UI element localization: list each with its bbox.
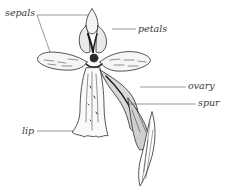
sepal-left <box>38 52 88 70</box>
petal-right <box>96 26 107 53</box>
label-spur: spur <box>198 98 220 108</box>
label-ovary: ovary <box>188 81 215 91</box>
dorsal-sepal <box>86 9 98 34</box>
label-lip: lip <box>22 126 34 136</box>
label-petals: petals <box>138 24 167 34</box>
label-sepals: sepals <box>5 8 35 18</box>
orchid-diagram: sepals petals ovary spur lip <box>0 0 239 193</box>
lip <box>72 68 108 137</box>
